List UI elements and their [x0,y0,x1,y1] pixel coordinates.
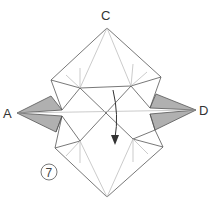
inner-folds [51,77,163,148]
fold-down-arrow [111,90,119,145]
label-c: C [101,8,110,23]
left-flap [17,96,62,132]
label-d: D [199,103,208,118]
model-outline [51,28,163,197]
step-number-badge: 7 [41,164,57,180]
origami-diagram: C A D 7 [0,0,218,199]
right-flap [150,94,196,130]
step-number: 7 [46,166,53,180]
label-a: A [3,106,12,121]
